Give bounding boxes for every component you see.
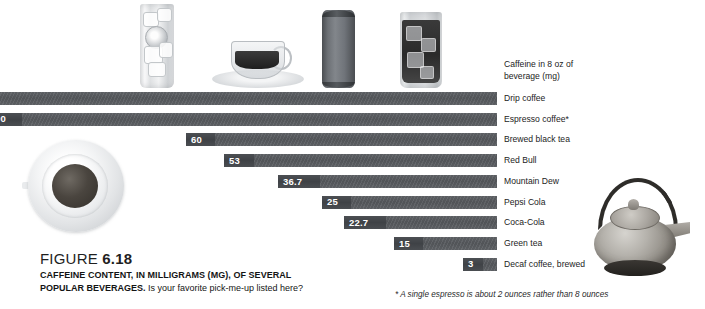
axis-title-line-1: Caffeine in 8 oz of	[504, 59, 644, 71]
bar-value-label: 00	[0, 113, 22, 126]
bar-value-label: 15	[394, 237, 423, 250]
bar-value-label: 25	[322, 196, 351, 209]
bar-category-label: Mountain Dew	[504, 175, 559, 188]
figure-caption: FIGURE 6.18 CAFFEINE CONTENT, IN MILLIGR…	[40, 250, 390, 294]
caption-title-bold: POPULAR BEVERAGES.	[40, 283, 146, 293]
bar-category-label: Espresso coffee*	[504, 113, 569, 126]
figure-word: FIGURE	[40, 250, 98, 267]
figure-number-line: FIGURE 6.18	[40, 250, 390, 267]
bar-row: 53Red Bull	[0, 154, 705, 167]
bar	[224, 154, 497, 167]
caption-title-line-1: CAFFEINE CONTENT, IN MILLIGRAMS (MG), OF…	[40, 269, 390, 282]
bar-category-label: Red Bull	[504, 154, 536, 167]
bar-row: Drip coffee	[0, 92, 705, 105]
bar-category-label: Pepsi Cola	[504, 196, 546, 209]
axis-title-line-2: beverage (mg)	[504, 71, 644, 83]
caption-question: Is your favorite pick-me-up listed here?	[146, 283, 304, 293]
axis-title: Caffeine in 8 oz of beverage (mg)	[504, 59, 644, 82]
bar-row: 25Pepsi Cola	[0, 196, 705, 209]
caffeine-content-figure: Caffeine in 8 oz of beverage (mg) Drip c…	[0, 0, 705, 309]
bar-value-label: 53	[224, 154, 254, 167]
bar-category-label: Coca-Cola	[504, 216, 545, 229]
bar-category-label: Decaf coffee, brewed	[504, 258, 585, 271]
bar-row: 36.7Mountain Dew	[0, 175, 705, 188]
bar	[0, 92, 497, 105]
bar-row: 00Espresso coffee*	[0, 113, 705, 126]
bar-category-label: Brewed black tea	[504, 133, 570, 146]
bar-value-label: 36.7	[278, 175, 320, 188]
bar-row: 60Brewed black tea	[0, 133, 705, 146]
footnote: * A single espresso is about 2 ounces ra…	[395, 290, 608, 299]
caption-title-line-2: POPULAR BEVERAGES. Is your favorite pick…	[40, 282, 390, 295]
bar-category-label: Green tea	[504, 237, 542, 250]
bar	[0, 113, 497, 126]
bar-row: 15Green tea	[0, 237, 705, 250]
bar-category-label: Drip coffee	[504, 92, 545, 105]
bar-value-label: 60	[186, 133, 215, 146]
bar	[186, 133, 497, 146]
bar-row: 22.7Coca-Cola	[0, 216, 705, 229]
figure-number: 6.18	[102, 250, 132, 267]
bar-value-label: 22.7	[344, 216, 386, 229]
bar-value-label: 3	[463, 258, 483, 271]
